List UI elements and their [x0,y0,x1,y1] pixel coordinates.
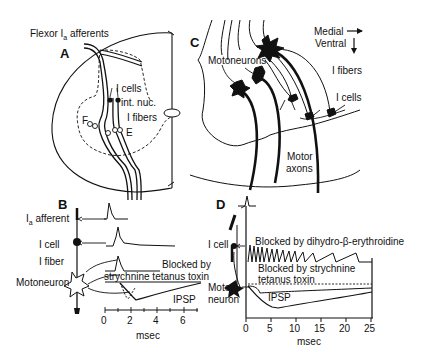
int-nuc-label: int. nuc. [121,97,156,108]
flexor-label: F [82,115,88,126]
motoneuron-label: Motoneuron [16,277,69,288]
x-tick: 2 [127,315,133,326]
i-cell-3 [327,108,336,117]
x-tick: 0 [101,315,107,326]
i-cells-label-c: I cells [336,92,362,103]
x-tick: 5 [267,323,273,334]
i-cell-label-d: I cell [208,239,229,250]
strychnine-tetanus-label: strychnine tetanus toxin [104,271,209,282]
tetanus-toxin-label: tetanus toxin [258,274,315,285]
blocked-by-label: Blocked by [162,259,211,270]
x-axis-label-d: msec [297,336,321,347]
i-cells-label: I cells [116,83,142,94]
ia-afferent-label: Ia afferent [26,213,69,226]
blocked-strychnine-label: Blocked by strychnine [258,263,356,274]
x-tick: 0 [243,323,249,334]
x-axis-label: msec [136,330,160,341]
motoneuron-mid [252,66,265,84]
x-tick: 15 [314,323,326,334]
x-tick: 20 [339,323,351,334]
x-tick: 10 [289,323,301,334]
i-fibers-label-c: I fibers [332,65,362,76]
ventral-label: Ventral [315,38,346,49]
panel-b-letter: B [58,197,67,212]
ipsp-label: IPSP [173,294,196,305]
moto-label: Moto [208,282,231,293]
neuron-label: neuron [208,294,239,305]
panel-a [52,31,180,200]
extensor-label: E [126,127,133,138]
ipsp-label-d: IPSP [268,292,291,303]
motoneurons-label: Motoneurons [208,55,266,66]
panel-d-letter: D [216,197,225,212]
panel-a-labels: Flexor Ia afferents A I cells int. nuc. … [30,28,157,138]
blocked-dhbe-label: Blocked by dihydro-β-erythroidine [255,236,405,247]
panel-a-letter: A [60,46,70,61]
panel-d [224,196,373,322]
i-fibers-label: I fibers [127,112,157,123]
x-tick: 25 [364,323,376,334]
panel-b-labels: B Ia afferent I cell I fiber Motoneuron … [16,197,211,341]
i-cell-label: I cell [39,239,60,250]
i-fiber-label: I fiber [39,256,65,267]
figure-canvas: Flexor Ia afferents A I cells int. nuc. … [0,0,431,352]
x-tick: 4 [153,315,159,326]
x-tick: 6 [180,315,186,326]
motor-label: Motor [287,151,313,162]
medial-label: Medial [314,26,343,37]
flexor-ia-afferents-label: Flexor Ia afferents [30,28,109,41]
panel-c-letter: C [190,35,200,50]
axons-label: axons [286,163,313,174]
